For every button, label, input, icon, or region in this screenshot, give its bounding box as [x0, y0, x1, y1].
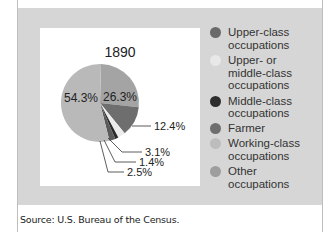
legend-item-middle-class: Middle-class occupations [209, 95, 321, 120]
legend-label: Working-class [228, 137, 321, 150]
legend-label: Upper- or [228, 54, 321, 67]
leader-line-3-1 [108, 138, 142, 152]
legend-label: Upper-class [228, 26, 321, 39]
legend-item-upper-or-middle-class: Upper- or middle-class occupations [209, 54, 321, 92]
legend-label: occupations [228, 79, 321, 92]
leader-line-1-4 [104, 140, 136, 162]
legend-label: occupations [228, 150, 321, 163]
legend: Upper-class occupations Upper- or middle… [209, 26, 321, 192]
legend-label: Middle-class [228, 95, 321, 108]
source-note: Source: U.S. Bureau of the Census. [20, 214, 179, 225]
legend-item-upper-class: Upper-class occupations [209, 26, 321, 51]
label-2-5: 2.5% [127, 166, 152, 178]
legend-label: occupations [228, 39, 321, 52]
legend-swatch [210, 27, 221, 38]
label-26-3: 26.3% [103, 90, 137, 104]
legend-label: Farmer [228, 122, 321, 135]
legend-label: middle-class [228, 67, 321, 80]
legend-swatch [210, 138, 221, 149]
legend-swatch [210, 55, 221, 66]
legend-swatch [210, 96, 221, 107]
label-12-4: 12.4% [154, 120, 185, 132]
legend-swatch [210, 123, 221, 134]
legend-item-working-class: Working-class occupations [209, 137, 321, 162]
legend-swatch [210, 166, 221, 177]
legend-label: occupations [228, 178, 321, 191]
legend-item-farmer: Farmer [209, 122, 321, 135]
legend-label: occupations [228, 107, 321, 120]
legend-item-other: Other occupations [209, 165, 321, 190]
label-54-3: 54.3% [64, 91, 98, 105]
legend-label: Other [228, 165, 321, 178]
